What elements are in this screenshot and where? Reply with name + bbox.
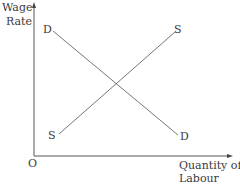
y-axis-label-line1: Wage [2, 2, 32, 14]
demand-label-start: D [43, 24, 52, 36]
supply-label-end: S [174, 24, 182, 36]
demand-curve [53, 31, 178, 135]
x-axis-arrow-icon [227, 154, 233, 158]
y-axis-label-line2: Rate [6, 16, 32, 28]
demand-label-end: D [180, 131, 189, 143]
supply-demand-diagram: Wage Rate D D S S O Quantity of Labour [0, 0, 240, 188]
y-axis-arrow-icon [32, 2, 36, 8]
supply-label-start: S [48, 130, 56, 142]
x-axis-label-line1: Quantity of [179, 160, 240, 172]
supply-curve [59, 32, 175, 134]
x-axis-label-line2: Labour [179, 173, 219, 185]
origin-label: O [28, 158, 37, 170]
